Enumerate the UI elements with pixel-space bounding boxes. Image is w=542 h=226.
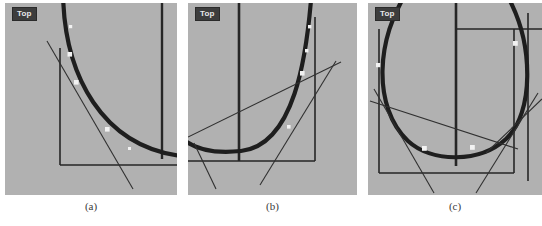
arc-markers-c [376,41,518,151]
panel-a-canvas [5,3,177,195]
top-badge-c: Top [375,7,400,21]
panel-c-canvas [368,3,542,195]
frame-lines-c [379,3,542,181]
circle-arc-a [63,3,177,157]
panel-c: Top [368,3,542,195]
top-badge-a: Top [12,7,37,21]
caption-c: (c) [368,200,542,212]
tangent-line-b2 [188,62,341,137]
tangent-line-c3 [370,101,518,149]
caption-a: (a) [5,200,177,212]
caption-b: (b) [188,200,357,212]
figure-container: Top Top [0,0,542,226]
tangent-line-c1 [374,89,434,193]
panel-b-canvas [188,3,357,195]
top-badge-b: Top [195,7,220,21]
panel-b: Top [188,3,357,195]
panel-a: Top [5,3,177,195]
